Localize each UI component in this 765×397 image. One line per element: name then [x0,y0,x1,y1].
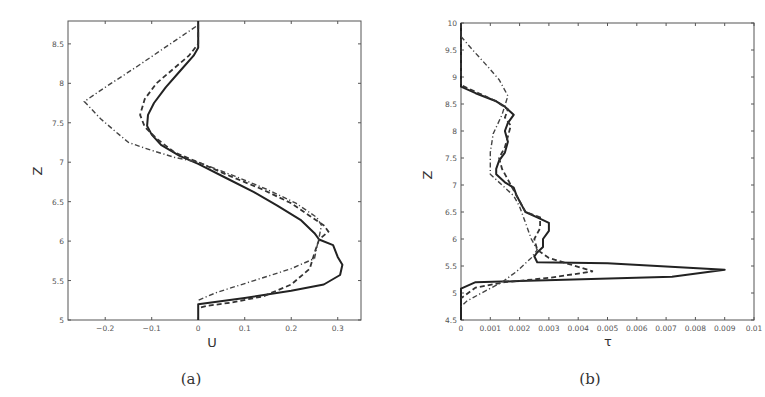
y-tick-label: 7.5 [445,154,457,163]
panel-b-axes-frame [461,23,754,320]
y-tick-label: 6 [452,235,457,244]
x-tick-label: 0 [459,324,464,333]
panel-b-caption: (b) [579,370,600,388]
y-tick-label: 10 [447,19,457,28]
series-dashed-line [461,23,593,298]
y-tick-label: 5 [59,316,64,325]
series-dash-dot-line [461,37,537,307]
x-tick-label: 0.007 [655,324,677,333]
x-tick-label: −0.1 [143,324,161,333]
figure: −0.2−0.100.10.20.355.566.577.588.5 U Z (… [0,0,765,397]
y-tick-label: 8.5 [52,40,64,49]
y-tick-label: 7 [59,158,64,167]
x-tick-label: 0.009 [714,324,736,333]
y-tick-label: 8.5 [445,100,457,109]
x-tick-label: 0.3 [332,324,344,333]
y-tick-label: 5.5 [52,277,64,286]
series-dashed-line [140,24,328,308]
y-tick-label: 8 [59,79,64,88]
x-tick-label: 0.01 [746,324,763,333]
panel-b-chart: 00.0010.0020.0030.0040.0050.0060.0070.00… [420,19,763,388]
panel-a-xlabel: U [207,335,217,350]
y-tick-label: 5.5 [445,262,457,271]
x-tick-label: −0.2 [96,324,114,333]
y-tick-label: 7 [452,181,457,190]
panel-a-axes-frame [68,21,361,320]
panel-b-series [461,23,725,320]
series-dash-dot-line [84,27,321,301]
x-tick-label: 0.006 [626,324,648,333]
x-tick-label: 0 [196,324,201,333]
panel-a-ylabel: Z [30,166,45,175]
y-tick-label: 9 [452,73,457,82]
x-tick-label: 0.005 [597,324,619,333]
x-tick-label: 0.001 [480,324,502,333]
x-tick-label: 0.003 [538,324,560,333]
x-tick-label: 0.004 [567,324,589,333]
x-tick-label: 0.002 [509,324,531,333]
y-tick-label: 6.5 [52,198,64,207]
series-solid-line [461,23,725,320]
panel-a-chart: −0.2−0.100.10.20.355.566.577.588.5 U Z (… [30,21,361,388]
y-tick-label: 6.5 [445,208,457,217]
y-tick-label: 6 [59,237,64,246]
panel-b-xlabel: τ [604,334,612,349]
panel-b-ylabel: Z [420,170,435,179]
x-tick-label: 0.2 [285,324,297,333]
x-tick-label: 0.008 [685,324,707,333]
y-tick-label: 8 [452,127,457,136]
x-tick-label: 0.1 [239,324,251,333]
y-tick-label: 4.5 [445,316,457,325]
panel-a-series [84,21,342,320]
panel-a-caption: (a) [181,370,202,388]
y-tick-label: 5 [452,289,457,298]
y-tick-label: 9.5 [445,46,457,55]
y-tick-label: 7.5 [52,119,64,128]
